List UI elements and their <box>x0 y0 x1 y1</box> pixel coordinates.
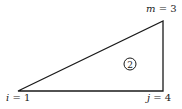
node-label-i: i = 1 <box>6 92 30 103</box>
triangle-element <box>18 21 163 91</box>
node-value-m: 3 <box>170 3 176 14</box>
node-var-i: i <box>6 92 9 103</box>
node-var-j: j <box>147 92 150 103</box>
node-label-m: m = 3 <box>146 3 177 14</box>
node-label-j: j = 4 <box>147 92 171 103</box>
node-value-j: 4 <box>165 92 171 103</box>
node-value-i: 1 <box>24 92 30 103</box>
node-var-m: m <box>146 3 155 14</box>
element-number: 2 <box>127 60 133 70</box>
